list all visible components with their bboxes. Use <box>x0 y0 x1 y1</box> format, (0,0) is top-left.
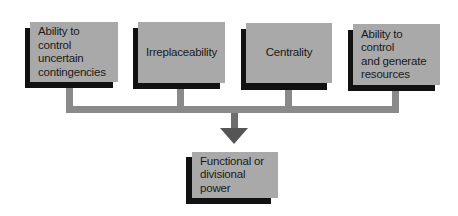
box-label: Centrality <box>266 46 313 60</box>
box-label: Functional or divisional power <box>200 155 270 196</box>
box-face: Functional or divisional power <box>192 152 278 198</box>
connector-arrow-shaft <box>231 113 238 129</box>
connector-horizontal-bar <box>66 106 399 113</box>
box-face: Ability to control and generate resource… <box>353 24 440 85</box>
arrow-down-icon <box>220 128 248 144</box>
power-sources-diagram: Ability to control uncertain contingenci… <box>0 0 458 216</box>
box-label: Irreplaceability <box>146 46 217 60</box>
box-face: Centrality <box>246 23 332 83</box>
box-face: Irreplaceability <box>138 22 225 83</box>
box-face: Ability to control uncertain contingenci… <box>30 22 118 82</box>
box-label: Ability to control uncertain contingenci… <box>38 25 110 79</box>
box-label: Ability to control and generate resource… <box>361 28 432 82</box>
